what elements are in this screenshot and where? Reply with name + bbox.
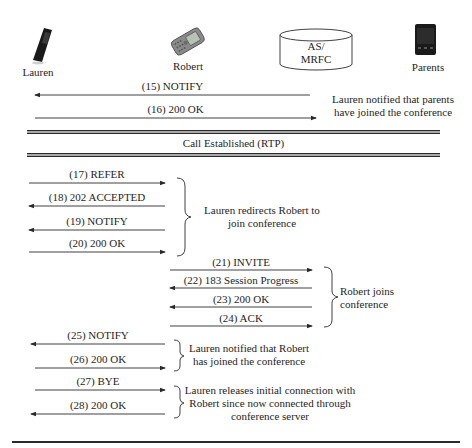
message-label: (20) 200 OK: [29, 237, 165, 249]
bottom-rule: [12, 441, 460, 443]
actor-label-server: AS/ MRFC: [286, 40, 346, 66]
message-label: (15) NOTIFY: [35, 80, 310, 92]
message-label: (26) 200 OK: [31, 353, 165, 365]
message-label: (22) 183 Session Progress: [170, 274, 312, 286]
message-label: (19) NOTIFY: [29, 215, 165, 227]
flip-phone-icon: [32, 28, 52, 65]
actor-label-robert: Robert: [160, 60, 216, 72]
message-label: (21) INVITE: [170, 256, 312, 268]
note-robert-joins: Robert joins conference: [340, 285, 410, 311]
brace-redirect: [177, 178, 191, 256]
smartphone-icon: [415, 24, 436, 55]
note-release: Lauren releases initial connection with …: [182, 384, 358, 423]
brace-robert-joined: [174, 340, 184, 371]
message-label: (18) 202 ACCEPTED: [29, 191, 165, 203]
message-label: (25) NOTIFY: [31, 329, 165, 341]
message-label: (23) 200 OK: [170, 293, 312, 305]
server-label-line1: AS/: [286, 40, 346, 53]
brace-robert-joins: [324, 267, 338, 327]
note-redirect: Lauren redirects Robert to join conferen…: [192, 204, 332, 230]
server-label-line2: MRFC: [286, 53, 346, 66]
message-label: (24) ACK: [170, 312, 312, 324]
note-parents-joined: Lauren notified that parents have joined…: [318, 93, 468, 119]
message-label: (16) 200 OK: [35, 103, 316, 115]
call-established-label: Call Established (RTP): [27, 137, 440, 149]
message-label: (17) REFER: [29, 168, 165, 180]
slider-phone-icon: [170, 27, 206, 57]
note-robert-joined: Lauren notified that Robert has joined t…: [184, 342, 314, 368]
actor-label-parents: Parents: [398, 61, 458, 73]
actor-label-lauren: Lauren: [10, 66, 66, 78]
message-label: (28) 200 OK: [31, 399, 165, 411]
message-label: (27) BYE: [31, 375, 165, 387]
